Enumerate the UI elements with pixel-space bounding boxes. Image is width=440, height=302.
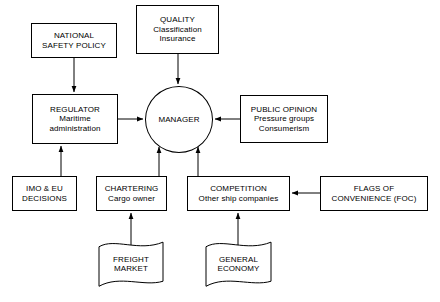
node-label-regulator-line-2: administration	[49, 124, 100, 133]
node-general-economy[interactable]: GENERALECONOMY	[205, 240, 272, 288]
node-label-general-economy-line-0: GENERAL	[219, 255, 258, 264]
node-chartering[interactable]: CHARTERINGCargo owner	[96, 176, 167, 211]
node-label-public-opinion-line-2: Consumerism	[259, 124, 309, 133]
node-regulator[interactable]: REGULATORMaritimeadministration	[32, 94, 118, 144]
node-label-national-safety-policy-line-1: SAFETY POLICY	[42, 41, 106, 50]
node-label-freight-market-line-0: FREIGHT	[113, 255, 149, 264]
node-label-freight-market-line-1: MARKET	[114, 264, 148, 273]
node-label-public-opinion-line-1: Pressure groups	[254, 114, 314, 123]
node-label-regulator-line-1: Maritime	[59, 114, 90, 123]
node-flags-of-convenience[interactable]: FLAGS OFCONVENIENCE (FOC)	[320, 176, 428, 211]
node-label-flags-of-convenience-line-1: CONVENIENCE (FOC)	[332, 194, 417, 203]
node-manager[interactable]: MANAGER	[145, 86, 213, 153]
node-label-competition-line-1: Other ship companies	[199, 194, 279, 203]
node-label-imo-eu-decisions-line-0: IMO & EU	[26, 184, 63, 193]
node-label-chartering-line-1: Cargo owner	[108, 194, 155, 203]
node-public-opinion[interactable]: PUBLIC OPINIONPressure groupsConsumerism	[240, 95, 328, 143]
node-label-public-opinion-line-0: PUBLIC OPINION	[251, 105, 317, 114]
node-label-national-safety-policy-line-0: NATIONAL	[54, 31, 94, 40]
node-national-safety-policy[interactable]: NATIONALSAFETY POLICY	[31, 23, 117, 58]
diagram-canvas: NATIONALSAFETY POLICYQUALITYClassificati…	[0, 0, 440, 302]
node-label-competition-line-0: COMPETITION	[210, 184, 267, 193]
node-label-general-economy-line-1: ECONOMY	[217, 264, 259, 273]
node-label-imo-eu-decisions-line-1: DECISIONS	[22, 194, 67, 203]
node-freight-market[interactable]: FREIGHTMARKET	[98, 240, 164, 288]
node-quality[interactable]: QUALITYClassificationInsurance	[136, 5, 219, 54]
node-label-quality-line-2: Insurance	[159, 34, 195, 43]
node-label-quality-line-1: Classification	[153, 25, 202, 34]
node-label-flags-of-convenience-line-0: FLAGS OF	[354, 184, 394, 193]
node-label-chartering-line-0: CHARTERING	[105, 184, 159, 193]
node-label-regulator-line-0: REGULATOR	[50, 105, 100, 114]
node-label-quality-line-0: QUALITY	[160, 15, 195, 24]
node-competition[interactable]: COMPETITIONOther ship companies	[187, 176, 290, 211]
node-label-manager-line-0: MANAGER	[158, 115, 199, 124]
node-imo-eu-decisions[interactable]: IMO & EUDECISIONS	[12, 176, 77, 211]
